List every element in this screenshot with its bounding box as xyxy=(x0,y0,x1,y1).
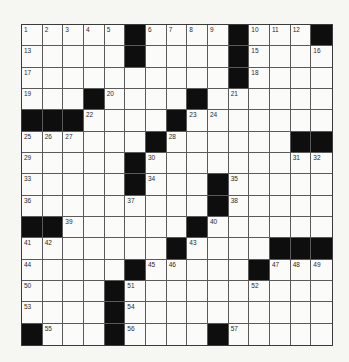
grid-cell[interactable] xyxy=(187,260,208,281)
grid-cell[interactable] xyxy=(208,302,229,323)
grid-cell[interactable] xyxy=(291,174,312,195)
grid-cell[interactable]: 45 xyxy=(146,260,167,281)
grid-cell[interactable] xyxy=(311,89,332,110)
grid-cell[interactable]: 21 xyxy=(229,89,250,110)
grid-cell[interactable] xyxy=(270,110,291,131)
grid-cell[interactable]: 4 xyxy=(84,25,105,46)
grid-cell[interactable] xyxy=(270,46,291,67)
grid-cell[interactable] xyxy=(146,68,167,89)
grid-cell[interactable] xyxy=(229,238,250,259)
grid-cell[interactable] xyxy=(187,153,208,174)
grid-cell[interactable]: 38 xyxy=(229,196,250,217)
grid-cell[interactable] xyxy=(249,132,270,153)
grid-cell[interactable] xyxy=(105,174,126,195)
grid-cell[interactable] xyxy=(270,68,291,89)
grid-cell[interactable]: 52 xyxy=(249,281,270,302)
grid-cell[interactable]: 1 xyxy=(22,25,43,46)
grid-cell[interactable] xyxy=(84,196,105,217)
grid-cell[interactable] xyxy=(187,281,208,302)
grid-cell[interactable]: 8 xyxy=(187,25,208,46)
grid-cell[interactable] xyxy=(43,281,64,302)
grid-cell[interactable] xyxy=(43,153,64,174)
grid-cell[interactable] xyxy=(105,68,126,89)
grid-cell[interactable] xyxy=(43,302,64,323)
grid-cell[interactable] xyxy=(291,324,312,345)
grid-cell[interactable]: 16 xyxy=(311,46,332,67)
grid-cell[interactable] xyxy=(63,238,84,259)
grid-cell[interactable] xyxy=(311,324,332,345)
grid-cell[interactable] xyxy=(43,46,64,67)
grid-cell[interactable] xyxy=(43,260,64,281)
grid-cell[interactable]: 28 xyxy=(167,132,188,153)
grid-cell[interactable] xyxy=(187,174,208,195)
grid-cell[interactable]: 29 xyxy=(22,153,43,174)
grid-cell[interactable] xyxy=(249,217,270,238)
grid-cell[interactable]: 39 xyxy=(63,217,84,238)
grid-cell[interactable] xyxy=(125,110,146,131)
grid-cell[interactable] xyxy=(249,196,270,217)
grid-cell[interactable] xyxy=(63,302,84,323)
grid-cell[interactable]: 22 xyxy=(84,110,105,131)
grid-cell[interactable]: 51 xyxy=(125,281,146,302)
grid-cell[interactable] xyxy=(105,238,126,259)
grid-cell[interactable]: 12 xyxy=(291,25,312,46)
grid-cell[interactable] xyxy=(84,68,105,89)
grid-cell[interactable] xyxy=(270,217,291,238)
grid-cell[interactable]: 26 xyxy=(43,132,64,153)
grid-cell[interactable] xyxy=(311,196,332,217)
grid-cell[interactable] xyxy=(270,89,291,110)
grid-cell[interactable]: 43 xyxy=(187,238,208,259)
grid-cell[interactable] xyxy=(291,89,312,110)
grid-cell[interactable] xyxy=(105,217,126,238)
grid-cell[interactable] xyxy=(208,89,229,110)
grid-cell[interactable]: 36 xyxy=(22,196,43,217)
grid-cell[interactable]: 42 xyxy=(43,238,64,259)
grid-cell[interactable] xyxy=(167,68,188,89)
grid-cell[interactable] xyxy=(84,302,105,323)
grid-cell[interactable] xyxy=(167,196,188,217)
grid-cell[interactable] xyxy=(84,153,105,174)
grid-cell[interactable] xyxy=(208,260,229,281)
grid-cell[interactable] xyxy=(146,110,167,131)
grid-cell[interactable] xyxy=(167,281,188,302)
grid-cell[interactable] xyxy=(167,302,188,323)
grid-cell[interactable] xyxy=(105,46,126,67)
grid-cell[interactable] xyxy=(208,153,229,174)
grid-cell[interactable] xyxy=(146,238,167,259)
grid-cell[interactable] xyxy=(229,302,250,323)
grid-cell[interactable] xyxy=(105,260,126,281)
grid-cell[interactable] xyxy=(311,281,332,302)
grid-cell[interactable] xyxy=(270,281,291,302)
grid-cell[interactable] xyxy=(146,324,167,345)
grid-cell[interactable] xyxy=(84,132,105,153)
grid-cell[interactable] xyxy=(63,260,84,281)
grid-cell[interactable] xyxy=(146,89,167,110)
grid-cell[interactable] xyxy=(125,238,146,259)
grid-cell[interactable] xyxy=(249,238,270,259)
grid-cell[interactable] xyxy=(291,281,312,302)
grid-cell[interactable] xyxy=(105,110,126,131)
grid-cell[interactable]: 25 xyxy=(22,132,43,153)
grid-cell[interactable] xyxy=(187,196,208,217)
grid-cell[interactable] xyxy=(249,153,270,174)
grid-cell[interactable]: 47 xyxy=(270,260,291,281)
grid-cell[interactable] xyxy=(229,132,250,153)
grid-cell[interactable] xyxy=(63,89,84,110)
grid-cell[interactable] xyxy=(291,46,312,67)
grid-cell[interactable] xyxy=(187,132,208,153)
grid-cell[interactable]: 6 xyxy=(146,25,167,46)
grid-cell[interactable] xyxy=(167,324,188,345)
grid-cell[interactable] xyxy=(291,302,312,323)
grid-cell[interactable] xyxy=(43,174,64,195)
grid-cell[interactable]: 48 xyxy=(291,260,312,281)
grid-cell[interactable] xyxy=(84,217,105,238)
grid-cell[interactable] xyxy=(63,46,84,67)
grid-cell[interactable] xyxy=(125,132,146,153)
grid-cell[interactable] xyxy=(270,132,291,153)
grid-cell[interactable] xyxy=(167,174,188,195)
grid-cell[interactable]: 32 xyxy=(311,153,332,174)
grid-cell[interactable]: 7 xyxy=(167,25,188,46)
grid-cell[interactable] xyxy=(84,46,105,67)
grid-cell[interactable] xyxy=(146,217,167,238)
grid-cell[interactable] xyxy=(208,281,229,302)
